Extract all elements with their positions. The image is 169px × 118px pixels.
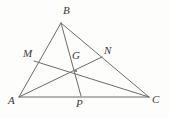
- cevian-CM: [34, 61, 149, 97]
- geometry-figure: B M N G A C P: [0, 0, 169, 118]
- point-label-B: B: [63, 5, 70, 16]
- vertex-dot-group: [75, 70, 77, 72]
- cevian-AN: [19, 57, 102, 97]
- point-label-M: M: [23, 48, 32, 59]
- point-label-A: A: [8, 95, 15, 106]
- point-label-N: N: [104, 45, 111, 56]
- side-AB: [19, 23, 61, 97]
- geometry-canvas: [0, 0, 169, 118]
- point-label-P: P: [76, 98, 83, 109]
- point-label-G: G: [72, 50, 80, 61]
- segment-group: [19, 23, 149, 97]
- point-label-C: C: [152, 94, 159, 105]
- centroid-dot: [75, 70, 77, 72]
